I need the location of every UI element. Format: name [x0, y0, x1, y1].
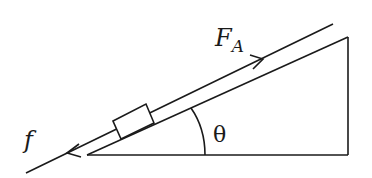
- angle-arc: [191, 108, 205, 155]
- friction-label: f: [22, 126, 37, 154]
- block: [113, 104, 154, 139]
- angle-label: θ: [213, 122, 226, 147]
- force-line: [26, 24, 333, 173]
- incline-diagram: FA f θ: [0, 0, 372, 178]
- applied-force-label: FA: [214, 24, 244, 56]
